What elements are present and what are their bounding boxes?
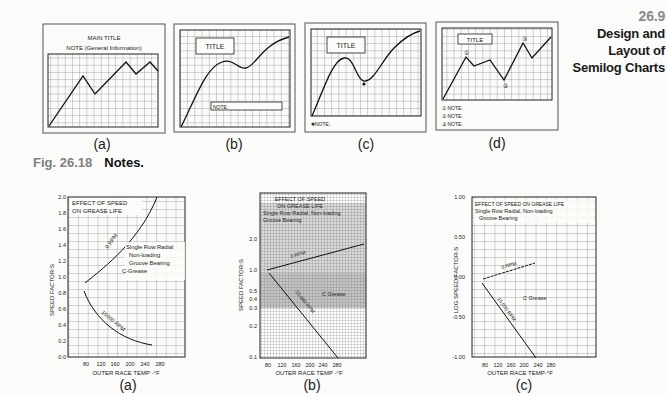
chart-b-title-line-2: ON GREASE LIFE: [277, 203, 323, 209]
svg-text:0.1: 0.1: [249, 354, 257, 360]
svg-text:280: 280: [546, 362, 555, 368]
chart-a-label: (a): [108, 377, 148, 393]
svg-text:240: 240: [533, 362, 542, 368]
panel-c-label: (c): [346, 136, 386, 152]
svg-text:240: 240: [140, 361, 149, 367]
panel-b: TITLE NOTE:: [174, 24, 295, 132]
callout-1: ①: [464, 50, 469, 56]
svg-text:0.2: 0.2: [249, 323, 257, 329]
chart-a: 2.0 1.8 1.6 1.4 1.2 1.0 0.8 0.6 0.4 0.2 …: [49, 194, 185, 376]
callout-3: ③: [522, 36, 527, 42]
svg-text:1.0: 1.0: [58, 274, 66, 280]
chart-a-ylabel: SPEED FACTOR-S: [49, 264, 55, 316]
svg-text:Single Row Radial: Single Row Radial: [126, 244, 173, 250]
svg-text:200: 200: [305, 362, 314, 368]
svg-text:0.3: 0.3: [249, 305, 257, 311]
chart-c-label: (c): [504, 377, 544, 393]
svg-text:160: 160: [110, 361, 119, 367]
svg-text:0.6: 0.6: [58, 306, 66, 312]
svg-text:0.4: 0.4: [58, 322, 66, 328]
chart-c-title: EFFECT OF SPEED ON GREASE LIFE: [475, 201, 565, 207]
panel-c-title-box: TITLE: [336, 42, 355, 49]
panel-d-note-1: ① NOTE:: [442, 105, 463, 111]
svg-text:200: 200: [519, 362, 528, 368]
svg-text:0.2: 0.2: [58, 338, 66, 344]
panel-b-note-box: NOTE:: [213, 104, 228, 110]
panel-a-label: (a): [82, 136, 122, 152]
chart-b-ylabel: SPEED FACTOR-S: [238, 259, 244, 311]
chart-b-label: (b): [292, 377, 332, 393]
panel-b-title-box: TITLE: [205, 43, 224, 50]
svg-text:1.0: 1.0: [249, 267, 257, 273]
svg-text:0.50: 0.50: [454, 234, 465, 240]
chart-b: 2.0 1.0 0.5 0.4 0.3 0.2 0.1 80 120 160 2…: [238, 193, 366, 376]
chart-a-title-line-1: EFFECT OF SPEED: [72, 200, 128, 206]
panel-a-note: NOTE (General Information): [66, 45, 141, 51]
svg-text:2.0: 2.0: [249, 236, 257, 242]
chart-b-xlabel: OUTER RACE TEMP -°F: [275, 370, 343, 376]
figure-caption: Fig. 26.18Notes.: [33, 155, 144, 170]
svg-text:-0.50: -0.50: [452, 314, 465, 320]
grease-life-charts: 2.0 1.8 1.6 1.4 1.2 1.0 0.8 0.6 0.4 0.2 …: [0, 185, 667, 394]
svg-text:1.6: 1.6: [58, 226, 66, 232]
figure-26-18-panels: MAIN TITLE NOTE (General Information) TI…: [0, 0, 667, 150]
chart-c-ylabel: LOG SPEED FACTOR-S: [453, 247, 459, 314]
panel-d: TITLE ① ② ③ ① NOTE: ② NOTE: ③ NOTE:: [436, 22, 558, 130]
chart-a-xlabel: OUTER RACE TEMP -°F: [92, 370, 160, 376]
svg-text:Groove Bearing: Groove Bearing: [129, 260, 170, 266]
svg-text:1.8: 1.8: [58, 210, 66, 216]
svg-text:Single Row Radial, Non-loading: Single Row Radial, Non-loading: [263, 210, 341, 216]
svg-text:280: 280: [155, 361, 164, 367]
figure-title: Notes.: [104, 155, 144, 170]
svg-text:C Grease: C Grease: [322, 291, 346, 297]
svg-text:0.5: 0.5: [249, 288, 257, 294]
svg-text:C-Grease: C-Grease: [122, 268, 147, 274]
svg-text:-1.00: -1.00: [452, 354, 465, 360]
svg-text:80: 80: [83, 361, 89, 367]
svg-text:80: 80: [482, 362, 488, 368]
panel-a-main-title: MAIN TITLE: [88, 35, 121, 41]
svg-text:1.00: 1.00: [454, 194, 465, 200]
svg-text:120: 120: [277, 362, 286, 368]
svg-text:200: 200: [125, 361, 134, 367]
svg-text:Non-loading: Non-loading: [129, 252, 160, 258]
chart-c: 1.00 0.50 0.00 -0.50 -1.00 80 120 160 20…: [452, 194, 596, 376]
svg-text:1.4: 1.4: [58, 242, 66, 248]
svg-text:0.4: 0.4: [249, 296, 257, 302]
panel-d-title-box: TITLE: [467, 37, 483, 43]
panel-c-footnote: ✱NOTE:: [311, 121, 330, 127]
svg-text:Groove Bearing: Groove Bearing: [479, 215, 518, 221]
svg-text:280: 280: [332, 362, 341, 368]
svg-text:0.0: 0.0: [58, 354, 66, 360]
svg-text:120: 120: [493, 362, 502, 368]
svg-text:Single Row Radial, Non-loading: Single Row Radial, Non-loading: [475, 208, 553, 214]
panel-c: TITLE ✱NOTE:: [305, 23, 426, 132]
svg-text:C Grease: C Grease: [523, 295, 547, 301]
svg-text:240: 240: [318, 362, 327, 368]
svg-text:120: 120: [96, 361, 105, 367]
panel-d-note-2: ② NOTE:: [442, 113, 463, 119]
svg-text:160: 160: [506, 362, 515, 368]
panel-d-label: (d): [477, 135, 517, 151]
svg-text:160: 160: [291, 362, 300, 368]
callout-2: ②: [503, 83, 508, 89]
figure-number: Fig. 26.18: [33, 155, 92, 170]
panel-a: MAIN TITLE NOTE (General Information): [43, 24, 165, 133]
svg-text:80: 80: [265, 362, 271, 368]
chart-a-title-line-2: ON GREASE LIFE: [72, 208, 122, 214]
panel-b-label: (b): [214, 136, 254, 152]
svg-text:Groove Bearing: Groove Bearing: [263, 217, 302, 223]
chart-b-title-line-1: EFFECT OF SPEED: [275, 196, 326, 202]
svg-text:2.0: 2.0: [58, 194, 66, 200]
svg-text:0.8: 0.8: [58, 290, 66, 296]
svg-text:1.2: 1.2: [58, 258, 66, 264]
panel-d-note-3: ③ NOTE:: [442, 121, 463, 127]
chart-c-xlabel: OUTER RACE TEMP-°F: [487, 370, 553, 376]
